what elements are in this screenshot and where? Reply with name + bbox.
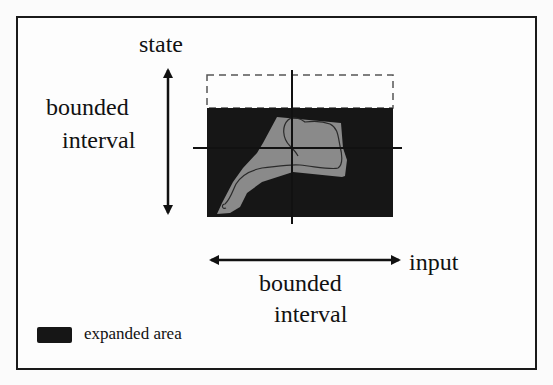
state-bounded-label: bounded: [46, 95, 129, 119]
input-interval-label: interval: [274, 302, 347, 326]
original-bound-dashed: [207, 75, 393, 108]
state-interval-label: interval: [62, 128, 135, 152]
state-label: state: [139, 32, 183, 56]
legend-swatch-expanded-area: [37, 327, 72, 343]
state-input-diagram: [0, 0, 553, 385]
legend-label-expanded-area: expanded area: [84, 325, 182, 342]
input-label: input: [409, 250, 458, 274]
input-bounded-label: bounded: [259, 271, 342, 295]
